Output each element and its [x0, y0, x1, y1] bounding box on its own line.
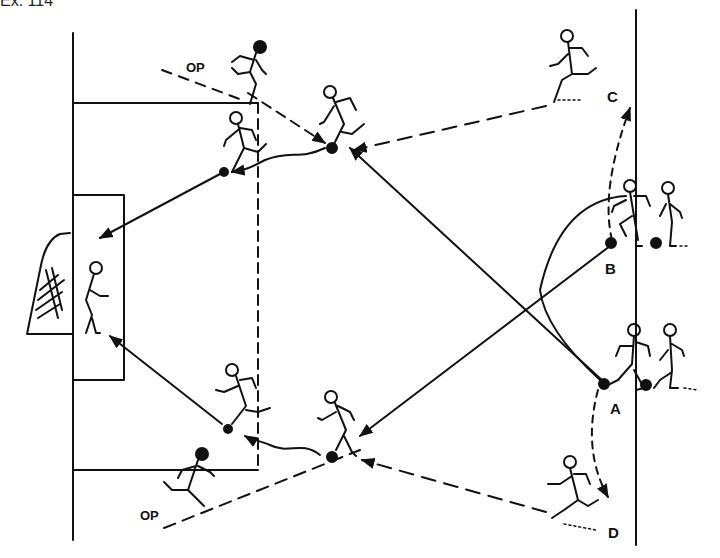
- pass-d-to-center: [362, 460, 546, 512]
- goal-area: [73, 195, 124, 380]
- dribble-bottom: [245, 436, 320, 455]
- partner-a: [654, 324, 698, 390]
- label-d: D: [608, 524, 619, 541]
- label-c: C: [607, 88, 618, 105]
- pass-op-top: [248, 93, 325, 143]
- runner-c: [550, 30, 596, 102]
- ball: [220, 168, 228, 176]
- ball-partner-b: [651, 238, 661, 248]
- shot-bottom: [110, 336, 222, 424]
- pass-c-to-center: [354, 106, 546, 150]
- attacker-bottom-center: [318, 391, 356, 456]
- attacker-top-center: [320, 86, 364, 144]
- goalkeeper: [86, 262, 108, 333]
- ball-partner-a: [641, 380, 651, 390]
- label-a: A: [610, 400, 621, 417]
- label-op-bottom: OP: [140, 508, 159, 523]
- arc-b-to-a: [540, 196, 626, 380]
- penalty-area: [73, 103, 258, 470]
- shot-top: [100, 174, 220, 238]
- op-bottom-run: [164, 450, 360, 528]
- runner-d: [548, 456, 598, 530]
- run-a-to-d: [592, 390, 608, 497]
- ball: [327, 143, 337, 153]
- opponent-bottom: [164, 448, 214, 506]
- attacker-bottom-left: [216, 364, 270, 424]
- ball: [224, 425, 232, 433]
- pass-b-to-bottom: [360, 246, 610, 436]
- label-op-top: OP: [186, 60, 205, 75]
- drill-diagram: [0, 0, 720, 558]
- label-b: B: [605, 260, 616, 277]
- dribble-top: [232, 148, 325, 172]
- partner-b: [660, 182, 690, 246]
- goal-net: [27, 233, 72, 334]
- player-b: [612, 180, 650, 246]
